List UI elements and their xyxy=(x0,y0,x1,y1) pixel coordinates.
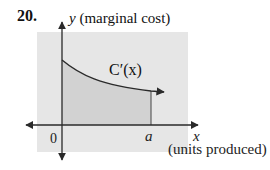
a-tick-label: a xyxy=(145,128,153,145)
x-axis-description: (units produced) xyxy=(168,141,267,158)
origin-label: 0 xyxy=(50,131,57,147)
y-axis-description: (marginal cost) xyxy=(79,10,170,26)
problem-number: 20. xyxy=(17,7,37,25)
y-axis-label: y (marginal cost) xyxy=(69,10,170,27)
y-axis-variable: y xyxy=(69,10,76,26)
curve-label: C′(x) xyxy=(109,61,142,79)
